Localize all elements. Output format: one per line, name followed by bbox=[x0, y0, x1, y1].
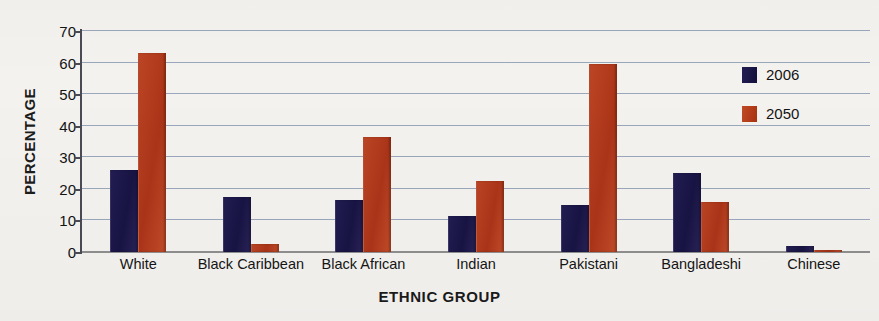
legend-item-2050: 2050 bbox=[742, 105, 799, 122]
y-tick-mark bbox=[74, 220, 81, 222]
legend-label: 2050 bbox=[766, 105, 799, 122]
x-tick-label: Black African bbox=[307, 256, 420, 272]
x-tick-label: Chinese bbox=[757, 256, 870, 272]
bar-group bbox=[532, 31, 645, 252]
legend-swatch-2050-icon bbox=[742, 106, 757, 122]
bar-2050-indian bbox=[476, 181, 504, 252]
x-tick-label: Indian bbox=[420, 256, 533, 272]
bar-2006-pakistani bbox=[561, 205, 589, 252]
bar-2050-black-african bbox=[363, 137, 391, 252]
bar-chart: PERCENTAGE 010203040506070 WhiteBlack Ca… bbox=[0, 0, 879, 321]
bar-2050-chinese bbox=[814, 250, 842, 252]
bar-groups bbox=[82, 31, 870, 252]
y-tick-label: 50 bbox=[42, 86, 76, 103]
bar-2006-white bbox=[110, 170, 138, 252]
x-tick-label: Pakistani bbox=[532, 256, 645, 272]
x-tick-label: Black Caribbean bbox=[195, 256, 308, 272]
y-tick-mark bbox=[74, 252, 81, 254]
bar-2006-chinese bbox=[786, 246, 814, 252]
y-tick-mark bbox=[74, 94, 81, 96]
bar-2006-bangladeshi bbox=[673, 173, 701, 252]
x-axis-title: ETHNIC GROUP bbox=[0, 288, 879, 305]
legend-item-2006: 2006 bbox=[742, 66, 799, 83]
bar-2050-bangladeshi bbox=[701, 202, 729, 253]
y-axis-tick-labels: 010203040506070 bbox=[40, 31, 76, 252]
y-tick-label: 0 bbox=[42, 244, 76, 261]
y-tick-mark bbox=[74, 63, 81, 65]
y-tick-label: 10 bbox=[42, 212, 76, 229]
bar-group bbox=[82, 31, 195, 252]
bar-2050-pakistani bbox=[589, 64, 617, 252]
legend-swatch-2006-icon bbox=[742, 67, 757, 83]
chart-legend: 20062050 bbox=[742, 66, 799, 122]
y-tick-label: 30 bbox=[42, 149, 76, 166]
bar-2006-indian bbox=[448, 216, 476, 252]
bar-group bbox=[307, 31, 420, 252]
bar-group bbox=[195, 31, 308, 252]
y-tick-mark bbox=[74, 31, 81, 33]
x-axis-tick-labels: WhiteBlack CaribbeanBlack AfricanIndianP… bbox=[82, 256, 870, 272]
legend-label: 2006 bbox=[766, 66, 799, 83]
x-tick-label: Bangladeshi bbox=[645, 256, 758, 272]
y-tick-mark bbox=[74, 189, 81, 191]
bar-group bbox=[645, 31, 758, 252]
bar-2050-white bbox=[138, 53, 166, 252]
y-tick-label: 70 bbox=[42, 23, 76, 40]
x-tick-label: White bbox=[82, 256, 195, 272]
bar-group bbox=[420, 31, 533, 252]
y-tick-label: 40 bbox=[42, 117, 76, 134]
bar-group bbox=[757, 31, 870, 252]
y-tick-mark bbox=[74, 157, 81, 159]
bar-2006-black-african bbox=[335, 200, 363, 252]
bar-2050-black-caribbean bbox=[251, 244, 279, 252]
bar-2006-black-caribbean bbox=[223, 197, 251, 252]
y-axis-title: PERCENTAGE bbox=[21, 47, 38, 237]
y-tick-label: 20 bbox=[42, 180, 76, 197]
y-tick-label: 60 bbox=[42, 54, 76, 71]
y-tick-mark bbox=[74, 126, 81, 128]
